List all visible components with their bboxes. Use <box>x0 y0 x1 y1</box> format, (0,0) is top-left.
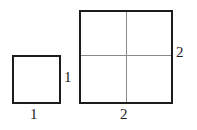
small-square-bottom-dimension-label: 1 <box>30 107 38 122</box>
small-square-right-dimension-label: 1 <box>64 70 72 85</box>
large-square-bottom-dimension-label: 2 <box>120 107 128 122</box>
geometry-figure: 1 1 2 2 <box>0 0 197 130</box>
large-square-vertical-divider-line <box>126 12 127 102</box>
large-square-outline <box>79 10 173 104</box>
small-square-outline <box>12 55 61 104</box>
large-square-horizontal-divider-line <box>81 55 171 56</box>
large-square-right-dimension-label: 2 <box>176 45 184 60</box>
